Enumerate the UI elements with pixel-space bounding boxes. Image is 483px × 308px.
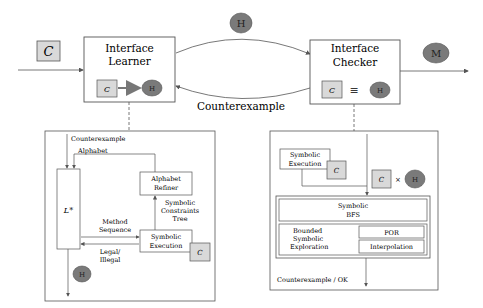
symbolic-bfs-1: Symbolic bbox=[338, 202, 369, 210]
counterexample-label: Counterexample bbox=[197, 100, 285, 112]
constraints-tree-1: Symbolic bbox=[165, 199, 196, 207]
legal-illegal-2: Illegal bbox=[100, 256, 121, 264]
detail-counterexample-label: Counterexample bbox=[71, 135, 126, 143]
checker-title-2: Checker bbox=[333, 56, 378, 68]
bounded-2: Symbolic bbox=[293, 235, 324, 243]
result-label: Counterexample / OK bbox=[277, 276, 348, 284]
learner-symexec-1: Symbolic bbox=[151, 233, 182, 241]
checker-title-1: Interface bbox=[331, 42, 380, 54]
alphabet-refiner-1: Alphabet bbox=[150, 175, 181, 183]
method-sequence-2: Sequence bbox=[99, 226, 131, 234]
learner-symexec-2: Execution bbox=[150, 242, 183, 250]
constraints-tree-2: Constraints bbox=[161, 207, 199, 215]
checker-h-label: H bbox=[377, 87, 383, 95]
learner-detail-h-label: H bbox=[79, 271, 85, 279]
hypothesis-h-label: H bbox=[237, 18, 246, 29]
checker-detail-c-label: C bbox=[334, 167, 340, 175]
equiv-symbol: ≡ bbox=[349, 84, 358, 97]
checker-symexec-2: Execution bbox=[289, 160, 322, 168]
alphabet-refiner-2: Refiner bbox=[154, 184, 179, 192]
learner-h-label: H bbox=[149, 85, 155, 93]
learner-detail-c-label: C bbox=[197, 249, 203, 257]
bounded-3: Exploration bbox=[290, 243, 328, 251]
checker-symexec-1: Symbolic bbox=[290, 151, 321, 159]
output-m-label: M bbox=[431, 48, 441, 59]
product-h-label: H bbox=[412, 176, 418, 184]
counterexample-arrow bbox=[176, 86, 310, 99]
bounded-1: Bounded bbox=[293, 227, 322, 235]
interpolation-label: Interpolation bbox=[370, 243, 413, 251]
symbolic-bfs-2: BFS bbox=[346, 211, 360, 219]
learner-c-label: C bbox=[104, 85, 110, 94]
product-times: × bbox=[395, 176, 401, 184]
legal-illegal-1: Legal/ bbox=[100, 248, 121, 256]
alphabet-label: Alphabet bbox=[77, 147, 108, 155]
checker-c-label: C bbox=[329, 86, 335, 95]
por-label: POR bbox=[384, 229, 400, 237]
learner-title-1: Interface bbox=[105, 42, 154, 54]
learner-title-2: Learner bbox=[108, 55, 151, 67]
constraints-tree-3: Tree bbox=[172, 215, 187, 223]
hypothesis-arrow bbox=[176, 39, 310, 54]
input-c-label: C bbox=[44, 44, 54, 59]
lstar-label: L* bbox=[63, 206, 73, 215]
method-sequence-1: Method bbox=[102, 218, 127, 226]
product-c-label: C bbox=[379, 176, 385, 184]
diagram: C Interface Learner C H H Counterexample… bbox=[0, 0, 483, 308]
